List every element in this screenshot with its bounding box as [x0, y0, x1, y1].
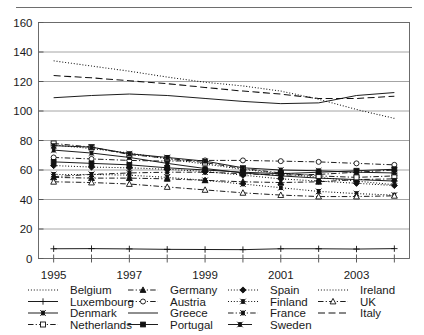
y-axis-tick-label: 20	[20, 223, 33, 235]
data-point-marker	[278, 159, 283, 164]
data-point-marker	[393, 171, 396, 175]
legend-item-spain[interactable]: Spain	[228, 284, 299, 296]
legend-label: Italy	[360, 307, 381, 319]
data-point-marker	[240, 158, 245, 163]
data-point-marker	[141, 322, 146, 327]
gridlines-group	[39, 52, 410, 229]
legend-item-portugal[interactable]: Portugal	[128, 319, 213, 331]
y-axis-tick-label: 120	[13, 76, 32, 88]
y-axis-tick-label: 0	[26, 253, 32, 265]
data-point-marker	[141, 299, 146, 304]
data-point-marker	[204, 178, 207, 182]
data-point-marker	[279, 186, 282, 190]
legend-item-luxembourg[interactable]: Luxembourg	[28, 296, 134, 308]
legend-item-sweden[interactable]: Sweden	[228, 319, 312, 331]
data-point-marker	[52, 175, 55, 179]
legend-label: Luxembourg	[70, 296, 134, 308]
data-point-marker	[354, 161, 359, 166]
series-line	[54, 166, 395, 186]
data-point-marker	[41, 322, 46, 327]
data-point-marker	[52, 148, 55, 152]
data-point-marker	[241, 170, 246, 175]
x-axis-tick-label: 2001	[268, 269, 294, 281]
legend-item-austria[interactable]: Austria	[128, 296, 206, 308]
data-point-marker	[51, 159, 56, 164]
legend-label: Finland	[270, 296, 308, 308]
data-point-marker	[165, 165, 170, 170]
legend-label: Portugal	[170, 319, 213, 331]
legend-item-uk[interactable]: UK	[318, 296, 376, 308]
y-axis-ticks-group: 020406080100120140160	[13, 17, 43, 265]
series-line	[54, 249, 395, 250]
series-greece	[54, 93, 395, 104]
series-line	[54, 182, 395, 197]
series-line	[54, 174, 395, 195]
y-axis-tick-label: 140	[13, 46, 32, 58]
chart-figure: 020406080100120140160 199519971999200120…	[0, 0, 424, 335]
data-point-marker	[204, 159, 207, 163]
data-point-marker	[355, 170, 358, 174]
legend-label: Greece	[170, 307, 208, 319]
data-point-marker	[242, 311, 245, 315]
data-point-marker	[90, 151, 93, 155]
data-point-marker	[239, 323, 242, 327]
series-france	[51, 167, 397, 179]
legend-label: Denmark	[70, 307, 117, 319]
legend-item-greece[interactable]: Greece	[128, 307, 208, 319]
y-axis-tick-label: 40	[20, 194, 33, 206]
legend-item-ireland[interactable]: Ireland	[318, 284, 395, 296]
series-line	[54, 146, 395, 173]
data-point-marker	[126, 181, 132, 187]
legend-label: Spain	[270, 284, 299, 296]
series-line	[54, 177, 395, 182]
data-point-marker	[128, 152, 131, 156]
legend-item-netherlands[interactable]: Netherlands	[28, 319, 132, 331]
data-point-marker	[203, 168, 208, 173]
series-group	[50, 61, 397, 253]
x-axis-tick-label: 2003	[344, 269, 370, 281]
data-point-marker	[242, 166, 245, 170]
legend-item-belgium[interactable]: Belgium	[28, 284, 112, 296]
data-point-marker	[90, 145, 93, 149]
data-point-marker	[42, 311, 45, 315]
data-point-marker	[52, 144, 55, 148]
legend-item-germany[interactable]: Germany	[128, 284, 218, 296]
legend-item-france[interactable]: France	[228, 307, 306, 319]
line-chart: 020406080100120140160 199519971999200120…	[0, 0, 424, 335]
legend-item-finland[interactable]: Finland	[228, 296, 308, 308]
legend-label: UK	[360, 296, 376, 308]
legend-label: Sweden	[270, 319, 312, 331]
series-finland	[51, 172, 397, 198]
legend-label: Belgium	[70, 284, 112, 296]
y-axis-tick-label: 160	[13, 17, 32, 29]
data-point-marker	[166, 170, 169, 174]
data-point-marker	[166, 161, 169, 165]
legend-label: France	[270, 307, 306, 319]
data-point-marker	[317, 169, 320, 173]
data-point-marker	[393, 179, 396, 183]
y-axis-tick-label: 100	[13, 105, 32, 117]
legend-item-denmark[interactable]: Denmark	[28, 307, 117, 319]
legend-group: BelgiumLuxembourgDenmarkNetherlandsGerma…	[28, 284, 395, 331]
data-point-marker	[242, 300, 245, 304]
y-axis-tick-label: 80	[20, 135, 33, 147]
x-axis-tick-label: 1995	[41, 269, 67, 281]
series-uk	[51, 179, 398, 199]
series-line	[54, 93, 395, 104]
data-point-marker	[166, 156, 169, 160]
data-point-marker	[279, 168, 282, 172]
data-point-marker	[316, 159, 321, 164]
data-point-marker	[128, 171, 131, 175]
data-point-marker	[127, 162, 132, 167]
header-rule	[16, 7, 412, 8]
x-axis-tick-label: 1999	[192, 269, 218, 281]
data-point-marker	[90, 173, 93, 177]
data-point-marker	[240, 287, 246, 293]
data-point-marker	[166, 175, 169, 179]
x-axis-tick-label: 1997	[117, 269, 143, 281]
legend-item-italy[interactable]: Italy	[318, 307, 381, 319]
legend-label: Austria	[170, 296, 206, 308]
legend-label: Netherlands	[70, 319, 132, 331]
series-luxembourg	[50, 245, 397, 252]
legend-label: Ireland	[360, 284, 395, 296]
